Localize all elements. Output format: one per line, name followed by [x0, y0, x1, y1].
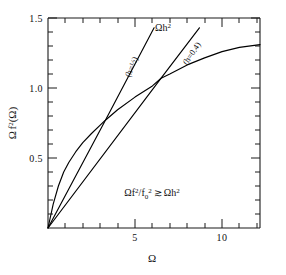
x-axis-ticks	[65, 219, 257, 228]
chart-canvas: 1.5 1.0 0.5 5 10 Ωf2(Ω) Ω Ωh2 (h=½) (h=0…	[0, 0, 286, 275]
annotation-h-half: (h=½)	[123, 55, 140, 78]
x-tick-label-10: 10	[217, 232, 228, 243]
y-axis-title-group: Ωf2(Ω)	[6, 106, 19, 139]
y-axis-ticks-right	[251, 18, 260, 214]
figure-container: 1.5 1.0 0.5 5 10 Ωf2(Ω) Ω Ωh2 (h=½) (h=0…	[0, 0, 286, 275]
x-tick-label-5: 5	[132, 232, 137, 243]
annotation-omega-h-squared: Ωh2	[155, 22, 171, 34]
y-axis-title: Ωf2(Ω)	[6, 106, 19, 139]
annotation-h-half-group: (h=½)	[123, 55, 140, 78]
annotation-inequality: Ωf2/f02≳Ωh2	[124, 187, 180, 201]
x-axis-title: Ω	[148, 252, 156, 264]
y-tick-label-0-5: 0.5	[29, 153, 43, 164]
y-tick-label-1-0: 1.0	[29, 83, 43, 94]
curve-omega-f-squared	[48, 45, 260, 228]
y-axis-ticks	[48, 18, 57, 214]
y-tick-label-1-5: 1.5	[29, 13, 43, 24]
